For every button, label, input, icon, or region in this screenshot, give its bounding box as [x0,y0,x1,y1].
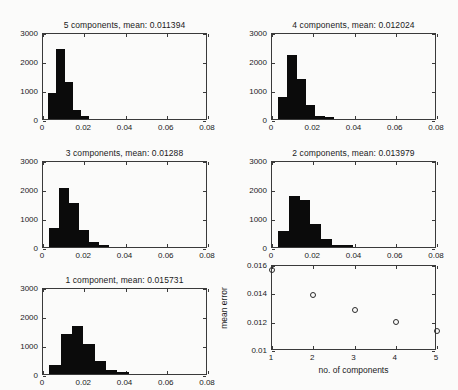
xticklabel-hist-1-component: 0.06 [158,378,174,387]
xtick-top-hist-1-component [167,289,168,292]
histogram-bar [99,245,109,247]
xtick-bottom-hist-4-components [396,116,397,119]
xticklabel-mean-error-vs-components: 1 [269,353,273,362]
xtick-bottom-hist-5-components [126,116,127,119]
histogram-bar [287,55,296,119]
xtick-bottom-hist-1-component [208,371,209,374]
yticklabel-hist-4-components: 3000 [231,29,267,38]
ytick-right-hist-3-components [203,220,206,221]
xtick-bottom-hist-5-components [43,116,44,119]
ytick-right-hist-4-components [432,34,435,35]
xtick-top-hist-2-components [437,162,438,165]
histogram-bar [315,116,324,119]
panel-title-hist-1-component: 1 component, mean: 0.015731 [42,275,207,285]
histogram-bar [59,188,69,247]
yticklabel-hist-5-components: 0 [2,116,38,125]
plot-axes-hist-1-component [42,288,207,375]
histogram-bar [332,245,343,247]
xticklabel-mean-error-vs-components: 3 [351,353,355,362]
xticklabel-hist-4-components: 0 [269,123,273,132]
ytick-left-hist-5-components [43,92,46,93]
histogram-bar [81,116,89,119]
plot-panel-hist-1-component: 1 component, mean: 0.01573100.020.040.06… [0,0,458,390]
xtick-bottom-hist-5-components [208,116,209,119]
ytick-right-mean-error-vs-components [432,266,435,267]
ytick-right-hist-5-components [203,63,206,64]
plot-axes-hist-3-components [42,161,207,248]
xtick-bottom-hist-3-components [167,244,168,247]
yticklabel-hist-1-component: 2000 [2,313,38,322]
scatter-marker [352,307,358,313]
ytick-right-hist-2-components [432,249,435,250]
ytick-right-hist-5-components [203,121,206,122]
ytick-right-hist-2-components [432,220,435,221]
xtick-top-hist-5-components [167,34,168,37]
plot-panel-hist-4-components: 4 components, mean: 0.01202400.020.040.0… [0,0,458,390]
xtick-bottom-hist-2-components [355,244,356,247]
xtick-top-mean-error-vs-components [313,266,314,269]
xtick-top-hist-4-components [437,34,438,37]
ytick-left-hist-4-components [272,121,275,122]
plot-axes-hist-4-components [271,33,436,120]
xtick-bottom-hist-4-components [437,116,438,119]
ytick-right-hist-1-component [203,289,206,290]
yticklabel-hist-2-components: 3000 [231,157,267,166]
ytick-left-hist-1-component [43,289,46,290]
yticklabel-hist-5-components: 2000 [2,58,38,67]
yticklabel-hist-5-components: 1000 [2,87,38,96]
histogram-bar [306,105,315,119]
histogram-bar [310,224,321,247]
xtick-top-hist-5-components [43,34,44,37]
xtick-bottom-hist-2-components [313,244,314,247]
xticklabel-hist-2-components: 0.06 [387,251,403,260]
xtick-top-hist-1-component [84,289,85,292]
xtick-bottom-mean-error-vs-components [396,346,397,349]
xtick-bottom-hist-2-components [437,244,438,247]
panel-title-hist-2-components: 2 components, mean: 0.013979 [271,148,436,158]
xtick-top-hist-5-components [208,34,209,37]
xticklabel-hist-1-component: 0 [40,378,44,387]
histogram-bar [343,245,354,247]
ytick-left-hist-1-component [43,376,46,377]
xticklabel-hist-5-components: 0.06 [158,123,174,132]
xtick-top-hist-1-component [126,289,127,292]
yticklabel-hist-4-components: 1000 [231,87,267,96]
xticklabel-hist-3-components: 0.08 [199,251,215,260]
ytick-right-mean-error-vs-components [432,294,435,295]
histogram-bar [278,97,287,119]
histogram-bar [289,196,300,247]
xtick-top-hist-3-components [84,162,85,165]
histogram-bar [95,361,106,374]
xticklabel-hist-4-components: 0.06 [387,123,403,132]
plot-panel-hist-5-components: 5 components, mean: 0.01139400.020.040.0… [0,0,458,390]
ytick-right-mean-error-vs-components [432,323,435,324]
yticklabel-hist-2-components: 0 [231,244,267,253]
ytick-right-hist-1-component [203,347,206,348]
xtick-top-mean-error-vs-components [355,266,356,269]
xticklabel-hist-3-components: 0.04 [117,251,133,260]
xtick-top-hist-4-components [355,34,356,37]
xtick-bottom-hist-1-component [43,371,44,374]
yticklabel-hist-4-components: 2000 [231,58,267,67]
histogram-bar [89,242,99,247]
figure-canvas: 5 components, mean: 0.01139400.020.040.0… [0,0,458,390]
ytick-left-hist-3-components [43,162,46,163]
ytick-right-hist-1-component [203,318,206,319]
ytick-left-hist-4-components [272,92,275,93]
xticklabel-hist-4-components: 0.04 [346,123,362,132]
xtick-top-hist-1-component [208,289,209,292]
xtick-bottom-hist-1-component [126,371,127,374]
histogram-bar [278,231,289,247]
xtick-bottom-hist-4-components [272,116,273,119]
histogram-bar [49,228,59,247]
xtick-bottom-hist-2-components [272,244,273,247]
panel-title-hist-3-components: 3 components, mean: 0.01288 [42,148,207,158]
ytick-right-hist-5-components [203,34,206,35]
histogram-bars-hist-1-component [43,289,206,374]
xtick-bottom-hist-3-components [126,244,127,247]
ytick-left-hist-4-components [272,34,275,35]
ytick-left-hist-4-components [272,63,275,64]
histogram-bar [65,82,73,119]
xtick-top-hist-2-components [313,162,314,165]
ytick-left-hist-2-components [272,191,275,192]
